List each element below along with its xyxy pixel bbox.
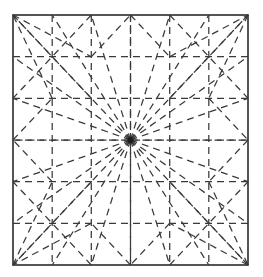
crease-pattern-figure — [0, 0, 263, 277]
center-vertex — [127, 137, 133, 143]
crease-pattern-canvas — [0, 0, 263, 277]
